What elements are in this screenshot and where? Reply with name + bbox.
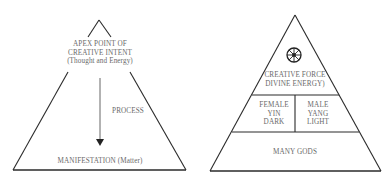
apex-label-line-2: CREATIVE INTENT: [58, 49, 142, 58]
apex-label-line-3: (Thought and Energy): [58, 57, 142, 66]
process-arrow: [96, 78, 104, 146]
dark-label: DARK: [255, 118, 293, 127]
male-yang-light-label: MALE YANG LIGHT: [299, 101, 337, 127]
many-gods-label: MANY GODS: [265, 148, 325, 157]
manifestation-label: MANIFESTATION (Matter): [40, 157, 160, 166]
eight-spoked-wheel-icon: [287, 48, 301, 62]
male-label: MALE: [299, 101, 337, 110]
yin-label: YIN: [255, 110, 293, 119]
diagram-canvas: [0, 0, 392, 181]
creative-force-line-2: DIVINE ENERGY): [258, 80, 332, 89]
creative-force-line-1: CREATIVE FORCE: [258, 71, 332, 80]
left-pyramid-right-edge: [130, 72, 186, 170]
left-pyramid-apex-left-edge: [88, 20, 99, 37]
apex-label: APEX POINT OF CREATIVE INTENT (Thought a…: [58, 40, 142, 66]
female-yin-dark-label: FEMALE YIN DARK: [255, 101, 293, 127]
process-label: PROCESS: [108, 107, 148, 116]
left-pyramid-apex-right-edge: [99, 20, 111, 37]
female-label: FEMALE: [255, 101, 293, 110]
arrow-head-icon: [96, 139, 104, 146]
light-label: LIGHT: [299, 118, 337, 127]
apex-label-line-1: APEX POINT OF: [58, 40, 142, 49]
yang-label: YANG: [299, 110, 337, 119]
creative-force-label: CREATIVE FORCE DIVINE ENERGY): [258, 71, 332, 88]
left-pyramid-left-edge: [13, 72, 68, 170]
